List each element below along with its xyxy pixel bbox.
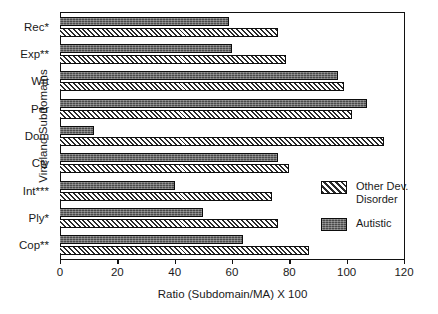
y-axis-tick-label: Cty	[0, 150, 56, 177]
bar-group	[60, 95, 404, 122]
legend-swatch-autistic	[321, 218, 347, 231]
bar-autistic	[60, 208, 203, 217]
bar-other-dev-disorder	[60, 110, 352, 119]
bar-autistic	[60, 181, 175, 190]
bar-group	[60, 122, 404, 149]
x-axis-tick-label: 60	[226, 266, 239, 278]
bar-group	[60, 40, 404, 67]
legend-entry: Other Dev. Disorder	[321, 180, 433, 205]
bar-chart: Vineland Subdomains Rec*Exp**WrtPerDomCt…	[0, 0, 438, 314]
legend-label: Other Dev. Disorder	[356, 180, 408, 205]
bar-other-dev-disorder	[60, 246, 309, 255]
bar-other-dev-disorder	[60, 28, 278, 37]
legend-swatch-other	[321, 181, 347, 194]
x-axis-tick	[232, 260, 233, 264]
y-axis-tick-label: Int***	[0, 177, 56, 204]
bar-group	[60, 150, 404, 177]
y-axis-tick-label: Exp**	[0, 40, 56, 67]
x-axis-tick-label: 100	[337, 266, 356, 278]
x-axis-tick-label: 120	[394, 266, 413, 278]
bar-autistic	[60, 235, 243, 244]
bar-autistic	[60, 17, 229, 26]
bar-other-dev-disorder	[60, 82, 344, 91]
y-axis-tick-label: Wrt	[0, 68, 56, 95]
bar-autistic	[60, 153, 278, 162]
bar-autistic	[60, 44, 232, 53]
y-axis-tick-label: Rec*	[0, 13, 56, 40]
bar-other-dev-disorder	[60, 137, 384, 146]
y-axis-tick-label: Per	[0, 95, 56, 122]
x-axis-tick	[404, 260, 405, 264]
x-axis-tick	[289, 260, 290, 264]
x-axis-tick-label: 40	[168, 266, 181, 278]
x-axis-tick	[117, 260, 118, 264]
x-axis-tick-label: 20	[111, 266, 124, 278]
x-axis-title: Ratio (Subdomain/MA) X 100	[60, 288, 405, 300]
x-axis-tick-label: 80	[283, 266, 296, 278]
y-axis-tick-label: Dom	[0, 122, 56, 149]
bar-other-dev-disorder	[60, 219, 278, 228]
bar-autistic	[60, 99, 367, 108]
bar-other-dev-disorder	[60, 192, 272, 201]
bar-autistic	[60, 126, 94, 135]
y-axis-tick-label: Cop**	[0, 232, 56, 259]
x-axis-tick	[347, 260, 348, 264]
x-axis-tick	[175, 260, 176, 264]
bar-other-dev-disorder	[60, 164, 289, 173]
chart-legend: Other Dev. DisorderAutistic	[321, 180, 433, 243]
legend-entry: Autistic	[321, 217, 433, 231]
x-axis-tick-label: 0	[57, 266, 63, 278]
y-axis-tick-label: Ply*	[0, 204, 56, 231]
bar-other-dev-disorder	[60, 55, 286, 64]
bar-group	[60, 68, 404, 95]
x-axis-tick	[60, 260, 61, 264]
x-axis-tick-labels: 020406080100120	[0, 266, 438, 282]
legend-label: Autistic	[356, 217, 391, 230]
bar-autistic	[60, 71, 338, 80]
y-axis-tick-labels: Rec*Exp**WrtPerDomCtyInt***Ply*Cop**	[0, 13, 56, 259]
bar-group	[60, 13, 404, 40]
